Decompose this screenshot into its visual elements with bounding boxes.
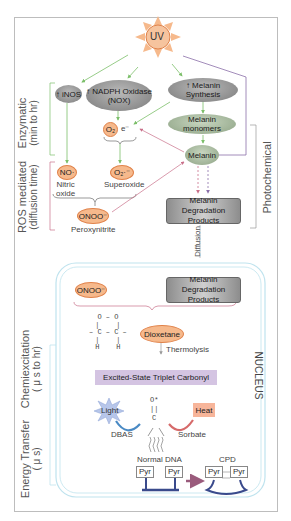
- inos-node: ↑ iNOS: [55, 85, 82, 103]
- phase-label-energy-transfer: Energy Transfer ( μ s): [20, 414, 42, 504]
- dioxetane-label: Dioxetane: [144, 330, 180, 339]
- nucleus-degradation-line2: Products: [188, 295, 220, 305]
- heat-box: Heat: [193, 403, 215, 417]
- peroxynitrite-label: Peroxynitrite: [71, 225, 115, 234]
- o2-node: O₂: [103, 122, 118, 137]
- phase-title: ROS mediated: [16, 161, 28, 233]
- melanin-label: Melanin: [188, 151, 216, 160]
- normal-dna-label: Normal DNA: [137, 455, 182, 464]
- cpd-pyr-box: Pyr: [205, 466, 223, 478]
- nucleus-text: NUCLEUS: [253, 352, 264, 400]
- onoo-node: ONOO⁻: [77, 208, 109, 224]
- electron-label: e⁻: [121, 124, 129, 133]
- melanin-monomers-node: Melanin monomers: [168, 114, 236, 134]
- nucleus-label: NUCLEUS: [253, 346, 264, 406]
- uv-label: UV: [150, 31, 164, 42]
- pyr-box: Pyr: [136, 466, 154, 478]
- no-node: NO·: [57, 165, 77, 180]
- nox-node: ↑ NADPH Oxidase (NOX): [86, 80, 152, 111]
- melanin-monomers-label: Melanin monomers: [168, 115, 236, 133]
- nucleus-onoo-label: ONOO⁻: [77, 286, 105, 295]
- phase-label-ros: ROS mediated (diffusion time): [17, 147, 39, 247]
- phase-title: Enzymatic: [16, 98, 28, 149]
- diffusion-text: Diffusion: [193, 226, 202, 257]
- nucleus-degradation-line1: Melanin Degradation: [167, 275, 240, 295]
- nitric-line1: Nitric: [56, 180, 74, 189]
- superoxide-label: Superoxide: [104, 180, 144, 189]
- sorbate-label: Sorbate: [178, 430, 206, 439]
- dbas-label: DBAS: [111, 430, 133, 439]
- pyr-box: Pyr: [165, 466, 183, 478]
- superoxide-node: O₂·⁻: [110, 165, 134, 180]
- nitric-oxide-label: Nitric oxide: [56, 180, 75, 198]
- nucleus-degradation-box: Melanin Degradation Products: [166, 277, 241, 303]
- cpd-pyr-box: Pyr: [230, 466, 248, 478]
- inos-label: ↑ iNOS: [56, 90, 81, 99]
- phase-subtitle: ( μ s): [31, 414, 42, 504]
- melanin-node: Melanin: [185, 145, 219, 165]
- phase-title: Chemiexcitation: [19, 330, 31, 408]
- phase-label-chemiexcitation: Chemiexcitation ( μ s to hr): [20, 324, 42, 414]
- carbonyl-structure: O* || C: [150, 396, 158, 423]
- light-label: Light: [101, 406, 118, 415]
- melanin-degradation-box: Melanin Degradation Products: [166, 198, 241, 224]
- triplet-label: Excited-State Triplet Carbonyl: [103, 373, 209, 382]
- melanin-synthesis-label: ↑ Melanin Synthesis: [168, 81, 238, 99]
- phase-title: Photochemical: [261, 141, 273, 213]
- nucleus-onoo-node: ONOO⁻: [75, 282, 107, 298]
- phase-subtitle: (diffusion time): [28, 147, 39, 247]
- phase-label-photochemical: Photochemical: [262, 133, 273, 223]
- no-label: NO·: [60, 168, 75, 177]
- heat-label: Heat: [196, 406, 213, 415]
- nitric-line2: oxide: [56, 189, 75, 198]
- dioxetane-structure: O – O | | – C – C – | | H H: [89, 314, 127, 352]
- diagram-connectors: [0, 0, 291, 521]
- nox-label-line1: ↑ NADPH Oxidase: [86, 87, 152, 96]
- cpd-label: CPD: [219, 455, 236, 464]
- phase-title: Energy Transfer: [19, 420, 31, 498]
- nox-label-line2: (NOX): [108, 96, 131, 105]
- onoo-label: ONOO⁻: [79, 212, 107, 221]
- triplet-carbonyl-box: Excited-State Triplet Carbonyl: [95, 370, 217, 385]
- melanin-synthesis-node: ↑ Melanin Synthesis: [168, 78, 238, 102]
- superoxide-symbol: O₂·⁻: [114, 168, 130, 177]
- o2-label: O₂: [106, 125, 115, 134]
- thermolysis-label: Thermolysis: [166, 345, 209, 354]
- dioxetane-node: Dioxetane: [140, 325, 184, 343]
- phase-subtitle: ( μ s to hr): [31, 324, 42, 414]
- diffusion-label: Diffusion: [192, 222, 203, 262]
- degradation-line1: Melanin Degradation: [167, 196, 240, 216]
